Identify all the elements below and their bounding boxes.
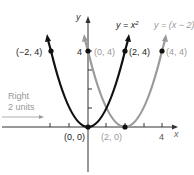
curve-shifted-arrow-left-icon: [82, 34, 88, 42]
point-4-4: [159, 48, 164, 53]
curve-base-arrow-left-icon: [45, 34, 51, 42]
point-0-0: [85, 124, 90, 129]
point-0-4: [85, 48, 90, 53]
x-tick-label-4: 4: [159, 132, 164, 142]
point-label-0-4: (0, 4): [94, 47, 115, 57]
points: [48, 48, 164, 129]
point-label-m2-4: (−2, 4): [16, 47, 42, 57]
y-tick-label-4: 4: [77, 47, 82, 57]
curve-shifted-arrow-right-icon: [162, 34, 168, 42]
curve-base-arrow-right-icon: [125, 34, 131, 42]
point-m2-4: [48, 48, 53, 53]
point-label-2-0: (2, 0): [101, 132, 122, 142]
point-label-0-0: (0, 0): [64, 132, 85, 142]
curve-base-label: y = x2: [115, 20, 139, 30]
point-label-2-4: (2, 4): [129, 47, 150, 57]
point-2-0: [122, 124, 127, 129]
x-ticks: [50, 123, 162, 127]
y-axis-label: y: [75, 12, 81, 22]
curve-shifted-label: y = (x − 2): [153, 20, 194, 30]
shift-label-line2: 2 units: [8, 102, 35, 112]
x-axis-label: x: [173, 129, 179, 139]
y-axis-arrow-icon: [86, 16, 91, 23]
point-label-4-4: (4, 4): [166, 47, 187, 57]
shift-label-line1: Right: [8, 91, 30, 101]
point-2-4: [122, 48, 127, 53]
graph-canvas: y x 4 4 y = x2 y = (x − 2) (−2, 4) (0, 4…: [0, 0, 194, 175]
curve-shifted: [88, 51, 162, 127]
shift-arrow-icon: [39, 115, 44, 119]
